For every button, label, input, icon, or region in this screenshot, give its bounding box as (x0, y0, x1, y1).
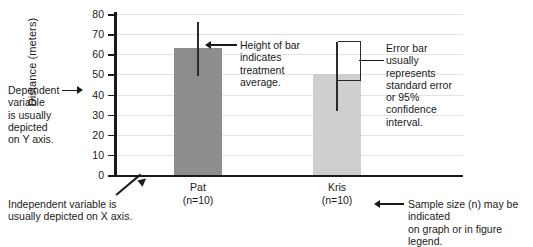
x-tick-label-kris-n: (n=10) (292, 194, 382, 207)
annotation-error-line-3: represents (386, 67, 478, 79)
annotation-sample-line-1: Sample size (n) may be indicated (408, 198, 533, 223)
annotation-height-arrow-icon (205, 41, 211, 49)
y-tick-label-70: 70 (78, 29, 104, 40)
gridline-20 (116, 135, 463, 136)
annotation-independent-line-1: Independent variable is (8, 198, 166, 210)
y-tick-mark-60 (108, 54, 115, 56)
annotation-error-line-5: or 95% (386, 91, 478, 103)
annotation-height-line-4: average. (240, 76, 318, 88)
annotation-error-line-7: interval. (386, 116, 478, 128)
x-tick-label-kris-name: Kris (292, 181, 382, 194)
annotation-sample-arrow-icon (374, 200, 380, 208)
gridline-80 (116, 14, 463, 15)
y-tick-mark-80 (108, 14, 115, 16)
annotation-sample-size: Sample size (n) may be indicated on grap… (408, 198, 533, 247)
gridline-10 (116, 155, 463, 156)
annotation-dependent-leader-line (62, 90, 78, 92)
annotation-dependent-line-2: variable (8, 96, 82, 108)
gridline-70 (116, 34, 463, 35)
annotation-independent-arrow-icon (137, 175, 148, 186)
annotation-error-bracket (338, 41, 361, 81)
annotation-height-line-1: Height of bar (240, 39, 318, 51)
annotation-height-of-bar: Height of bar indicates treatment averag… (240, 39, 318, 88)
y-tick-label-80: 80 (78, 9, 104, 20)
annotation-height-line-2: indicates (240, 51, 318, 63)
annotation-height-leader-line (211, 44, 237, 46)
annotation-independent-variable: Independent variable is usually depicted… (8, 198, 166, 223)
x-tick-label-pat: Pat (n=10) (153, 181, 243, 206)
error-bar-pat (197, 22, 199, 76)
annotation-dependent-line-5: on Y axis. (8, 133, 82, 145)
x-axis-line (114, 175, 463, 178)
y-tick-label-10: 10 (78, 150, 104, 161)
y-tick-label-50: 50 (78, 69, 104, 80)
annotation-error-line-6: confidence (386, 103, 478, 115)
annotation-height-line-3: treatment (240, 64, 318, 76)
annotation-dependent-arrow-icon (77, 86, 83, 94)
y-tick-mark-20 (108, 135, 115, 137)
y-tick-mark-40 (108, 95, 115, 97)
annotation-dependent-line-3: is usually (8, 109, 82, 121)
y-tick-mark-0 (108, 175, 115, 177)
y-tick-label-60: 60 (78, 49, 104, 60)
y-tick-mark-50 (108, 74, 115, 76)
y-tick-label-0: 0 (78, 170, 104, 181)
y-tick-mark-30 (108, 115, 115, 117)
x-tick-label-kris: Kris (n=10) (292, 181, 382, 206)
annotation-dependent-line-4: depicted (8, 121, 82, 133)
annotation-dependent-variable: Dependent variable is usually depicted o… (8, 84, 82, 145)
annotation-sample-line-2: on graph or in figure legend. (408, 223, 533, 247)
annotation-independent-line-2: usually depicted on X axis. (8, 210, 166, 222)
x-tick-label-pat-name: Pat (153, 181, 243, 194)
annotation-error-leader-line (359, 60, 384, 61)
annotation-error-line-1: Error bar (386, 42, 478, 54)
annotation-error-line-2: usually (386, 54, 478, 66)
y-tick-mark-70 (108, 34, 115, 36)
x-tick-label-pat-n: (n=10) (153, 194, 243, 207)
annotation-error-bar: Error bar usually represents standard er… (386, 42, 478, 128)
annotation-error-line-4: standard error (386, 79, 478, 91)
y-tick-mark-10 (108, 155, 115, 157)
annotation-sample-leader-line (380, 203, 404, 205)
